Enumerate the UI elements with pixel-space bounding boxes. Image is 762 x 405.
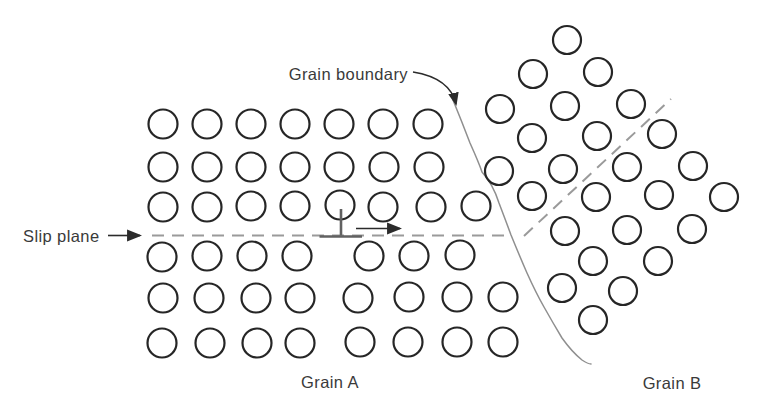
atom-circle <box>548 274 576 302</box>
atom-circle <box>579 306 607 334</box>
atom-circle <box>346 328 375 357</box>
atom-circle <box>196 329 225 358</box>
atom-circle <box>645 181 673 209</box>
atom-circle <box>613 153 641 181</box>
atom-circle <box>355 242 384 271</box>
atom-circle <box>281 110 310 139</box>
atom-circle <box>518 124 546 152</box>
atom-circle <box>237 192 266 221</box>
atom-circle <box>369 193 398 222</box>
atom-circle <box>710 183 738 211</box>
grain-boundary-leader-arrow <box>413 72 456 104</box>
atom-circle <box>582 183 610 211</box>
atom-circle <box>286 329 315 358</box>
atom-circle <box>281 153 310 182</box>
atom-circle <box>609 277 637 305</box>
atom-circle <box>583 122 611 150</box>
atom-circle <box>414 110 443 139</box>
atom-circle <box>325 153 354 182</box>
atom-circle <box>617 90 645 118</box>
atom-circle <box>644 247 672 275</box>
atom-circle <box>489 283 518 312</box>
atom-circle <box>395 283 424 312</box>
atom-circle <box>344 284 373 313</box>
grain-b-dashed-line <box>524 99 671 236</box>
atom-circle <box>462 192 491 221</box>
atom-circle <box>369 110 398 139</box>
atom-circle <box>613 216 641 244</box>
grain-b-atoms <box>485 26 738 334</box>
atom-circle <box>678 215 706 243</box>
atom-circle <box>417 193 446 222</box>
grain-a-atoms <box>148 110 518 358</box>
atom-circle <box>518 182 546 210</box>
atom-circle <box>485 157 513 185</box>
atom-circle <box>370 153 399 182</box>
atom-circle <box>553 26 581 54</box>
grain-b-label: Grain B <box>643 374 702 392</box>
atom-circle <box>325 110 354 139</box>
atom-circle <box>242 284 271 313</box>
atom-circle <box>193 110 222 139</box>
atom-circle <box>443 328 472 357</box>
atom-circle <box>281 192 310 221</box>
grain-boundary-figure: Grain boundary Slip plane Grain A Grain … <box>0 0 762 405</box>
atom-circle <box>584 58 612 86</box>
atom-circle <box>446 241 475 270</box>
atom-circle <box>394 328 423 357</box>
atom-circle <box>193 153 222 182</box>
atom-circle <box>443 283 472 312</box>
atom-circle <box>551 217 579 245</box>
atom-circle <box>283 242 312 271</box>
atom-circle <box>549 155 577 183</box>
diagram-canvas: Grain boundary Slip plane Grain A Grain … <box>0 0 762 405</box>
atom-circle <box>400 242 429 271</box>
atom-circle <box>238 242 267 271</box>
atom-circle <box>149 153 178 182</box>
atom-circle <box>149 110 178 139</box>
slip-plane-label: Slip plane <box>23 227 99 245</box>
atom-circle <box>415 153 444 182</box>
atom-circle <box>195 284 224 313</box>
atom-circle <box>519 60 547 88</box>
atom-circle <box>551 92 579 120</box>
atom-circle <box>237 153 266 182</box>
atom-circle <box>148 243 177 272</box>
atom-circle <box>237 110 266 139</box>
atom-circle <box>579 247 607 275</box>
atom-circle <box>148 329 177 358</box>
atom-circle <box>149 193 178 222</box>
grain-boundary-label: Grain boundary <box>289 65 409 83</box>
atom-circle <box>243 329 272 358</box>
atom-circle <box>489 328 518 357</box>
atom-circle <box>193 193 222 222</box>
atom-circle <box>486 95 514 123</box>
atom-circle <box>149 284 178 313</box>
grain-a-label: Grain A <box>301 373 359 391</box>
atom-circle <box>648 120 676 148</box>
atom-circle <box>286 284 315 313</box>
atom-circle <box>193 242 222 271</box>
atom-circle <box>679 152 707 180</box>
